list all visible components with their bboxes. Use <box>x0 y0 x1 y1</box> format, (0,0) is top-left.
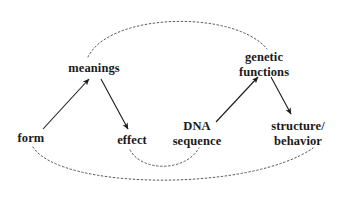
node-dna-sequence: DNA sequence <box>173 119 222 148</box>
node-structure-label-line1: structure/ <box>271 119 325 134</box>
edge-layer <box>0 0 345 198</box>
node-form-label: form <box>18 131 45 146</box>
node-structure-behavior: structure/ behavior <box>271 119 325 148</box>
arrow-dna-to-genetic <box>216 77 258 122</box>
arrow-genetic-to-structure <box>271 77 291 114</box>
node-genetic-label-line1: genetic <box>239 50 289 65</box>
arrow-meanings-to-effect <box>101 79 128 129</box>
node-genetic-functions: genetic functions <box>239 50 289 79</box>
node-meanings: meanings <box>68 61 120 76</box>
node-genetic-label-line2: functions <box>239 64 289 79</box>
dashed-curve-group <box>33 21 313 180</box>
concept-diagram: form meanings effect DNA sequence geneti… <box>0 0 345 198</box>
node-effect: effect <box>117 133 147 148</box>
node-effect-label: effect <box>117 133 147 148</box>
node-structure-label-line2: behavior <box>271 133 325 148</box>
node-form: form <box>18 131 45 146</box>
node-dna-label-line2: sequence <box>173 133 222 148</box>
node-dna-label-line1: DNA <box>173 119 222 134</box>
solid-arrow-group <box>43 77 291 129</box>
arrow-form-to-meanings <box>43 79 89 129</box>
dashed-arc-effect-to-sequence <box>130 148 199 166</box>
node-meanings-label: meanings <box>68 61 120 76</box>
dashed-arc-form-to-structure <box>33 147 313 180</box>
